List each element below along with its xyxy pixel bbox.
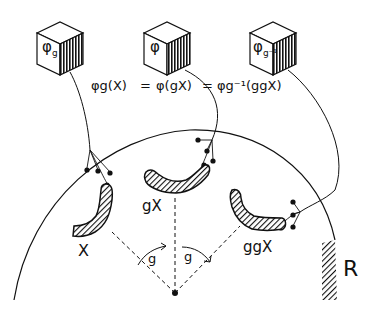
cube-left-label: φg bbox=[42, 40, 58, 58]
shape-gx bbox=[145, 165, 210, 193]
rotation-rays bbox=[112, 196, 240, 293]
shape-ggx bbox=[231, 190, 286, 231]
equation-equals-2: = bbox=[202, 79, 213, 92]
equation-part-2: φ(gX) bbox=[156, 79, 192, 92]
shape-x bbox=[73, 184, 112, 236]
connections-left bbox=[87, 150, 110, 185]
rotation-center-point bbox=[172, 290, 178, 296]
cube-right-label: φg⁻¹ bbox=[253, 40, 277, 58]
equation-part-3: φg⁻¹(ggX) bbox=[217, 79, 281, 92]
label-gx: gX bbox=[142, 199, 162, 214]
equation-part-1: φg(X) bbox=[91, 79, 127, 92]
angle-label-2: g bbox=[184, 250, 192, 263]
cube-center-label: φ bbox=[150, 40, 160, 55]
region-r-hatch bbox=[322, 240, 337, 300]
wire-right bbox=[288, 70, 339, 212]
label-ggx: ggX bbox=[243, 240, 272, 255]
region-label-r: R bbox=[343, 258, 358, 280]
label-x: X bbox=[78, 243, 89, 259]
angle-label-1: g bbox=[148, 252, 156, 265]
diagram-canvas: φg φ φg⁻¹ φg(X) = φ(gX) = φg⁻¹(ggX) X gX… bbox=[0, 0, 367, 318]
wire-left bbox=[70, 72, 90, 150]
equation-equals-1: = bbox=[140, 79, 151, 92]
